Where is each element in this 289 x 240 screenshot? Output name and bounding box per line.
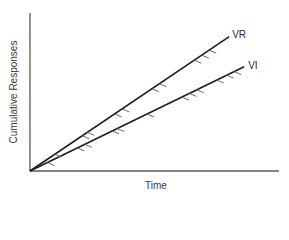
reinforcement-mark xyxy=(209,50,216,53)
reinforcement-mark xyxy=(159,84,166,87)
reinforcement-mark xyxy=(117,129,124,132)
series-label-vi: VI xyxy=(248,60,257,71)
reinforcement-mark xyxy=(115,114,122,117)
reinforcement-mark xyxy=(112,131,119,134)
series-label-vr: VR xyxy=(232,29,246,40)
reinforcement-mark xyxy=(182,97,189,100)
series-lines xyxy=(30,37,244,171)
reinforcement-mark xyxy=(85,144,92,147)
reinforcement-mark xyxy=(217,80,224,83)
x-axis-label: Time xyxy=(145,180,167,191)
reinforcement-mark xyxy=(234,72,241,75)
reinforcement-mark xyxy=(82,136,89,139)
reinforcement-mark xyxy=(197,90,204,93)
reinforcement-mark xyxy=(189,93,196,96)
reinforcement-mark xyxy=(227,75,234,78)
series-line-vr xyxy=(30,37,229,171)
reinforcement-mark xyxy=(147,114,154,117)
reinforcement-mark xyxy=(47,163,54,166)
y-axis-label: Cumulative Responses xyxy=(8,41,19,144)
reinforcement-mark xyxy=(77,148,84,151)
reinforcement-mark xyxy=(202,55,209,58)
reinforcement-mark xyxy=(152,89,159,92)
series-line-vi xyxy=(30,67,244,171)
reinforcement-mark xyxy=(194,60,201,63)
reinforcement-mark xyxy=(122,109,129,112)
reinforcement-mark xyxy=(87,132,94,135)
